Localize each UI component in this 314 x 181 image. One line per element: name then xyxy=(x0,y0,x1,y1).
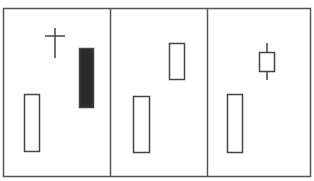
candlestick-pattern-figure xyxy=(0,0,314,181)
panel-3-candle-1-bullish-body xyxy=(228,95,243,153)
panel-2-candle-2-bullish-body xyxy=(170,44,185,80)
panel-1-candle-1-bullish-body xyxy=(25,95,40,152)
panel-3-candle-2-spinning-top-body xyxy=(260,53,275,72)
chart-canvas xyxy=(0,0,314,181)
panel-1-candle-3-bearish-body xyxy=(80,49,94,108)
panel-2-candle-1-bullish-body xyxy=(134,97,150,153)
chart-frame xyxy=(4,9,311,177)
